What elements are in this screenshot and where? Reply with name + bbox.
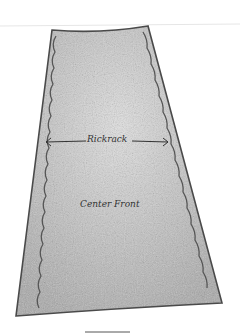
center-front-label: Center Front <box>80 199 140 209</box>
page-edge-line <box>0 24 240 26</box>
skirt-panel-sketch <box>0 0 240 334</box>
rickrack-label: Rickrack <box>87 134 127 144</box>
